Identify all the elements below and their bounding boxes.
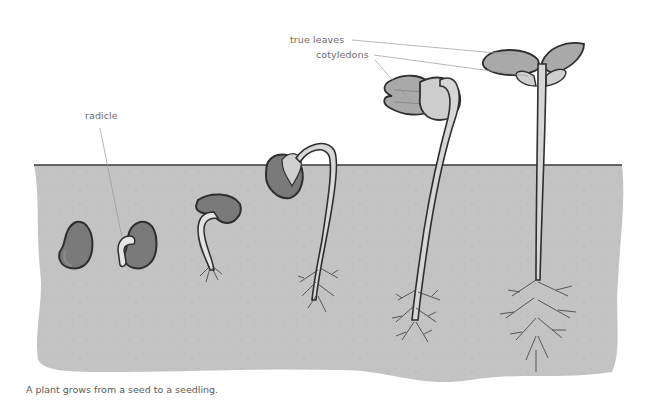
label-radicle: radicle — [85, 110, 118, 121]
true-leaves-leader-line — [352, 40, 518, 55]
diagram-canvas — [0, 0, 648, 413]
label-true-leaves: true leaves — [290, 34, 344, 45]
germination-diagram: radicle true leaves cotyledons A plant g… — [0, 0, 648, 413]
label-cotyledons: cotyledons — [316, 49, 369, 60]
figure-caption: A plant grows from a seed to a seedling. — [26, 384, 218, 395]
